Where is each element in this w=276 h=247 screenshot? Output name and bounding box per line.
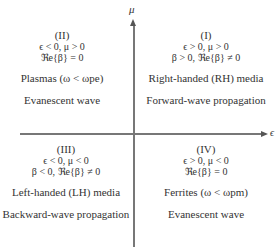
mu-axis (133, 24, 135, 247)
quadrant-ii: (II) ϵ < 0, μ > 0 ℜe{β} = 0 Plasmas (ω <… (0, 30, 124, 106)
quadrant-wave: Evanescent wave (136, 209, 276, 220)
quadrant-condition: ϵ > 0, μ < 0 (136, 155, 276, 166)
quadrant-iv: (IV) ϵ > 0, μ < 0 ℜe{β} = 0 Ferrites (ω … (136, 144, 276, 220)
quadrant-number: (II) (0, 30, 124, 41)
quadrant-number: (I) (136, 30, 276, 41)
quadrant-wave: Backward-wave propagation (0, 209, 132, 220)
quadrant-wave: Forward-wave propagation (136, 95, 276, 106)
quadrant-i: (I) ϵ > 0, μ > 0 β > 0, ℜe{β} ≠ 0 Right-… (136, 30, 276, 106)
quadrant-media: Left-handed (LH) media (0, 187, 132, 198)
quadrant-media: Ferrites (ω < ωpm) (136, 187, 276, 198)
quadrant-condition: β < 0, ℜe{β} ≠ 0 (0, 166, 132, 177)
quadrant-wave: Evanescent wave (0, 95, 124, 106)
quadrant-condition: ℜe{β} = 0 (136, 166, 276, 177)
mu-axis-arrow-icon (130, 19, 136, 26)
mu-axis-label: μ (129, 3, 135, 15)
quadrant-condition: ϵ > 0, μ > 0 (136, 41, 276, 52)
epsilon-axis-label: ϵ (270, 127, 274, 138)
quadrant-iii: (III) ϵ < 0, μ < 0 β < 0, ℜe{β} ≠ 0 Left… (0, 144, 132, 220)
quadrant-condition: β > 0, ℜe{β} ≠ 0 (136, 52, 276, 63)
quadrant-number: (IV) (136, 144, 276, 155)
quadrant-number: (III) (0, 144, 132, 155)
quadrant-condition: ϵ < 0, μ > 0 (0, 41, 124, 52)
epsilon-axis (20, 133, 264, 135)
epsilon-axis-arrow-icon (261, 131, 268, 137)
quadrant-condition: ℜe{β} = 0 (0, 52, 124, 63)
quadrant-media: Right-handed (RH) media (136, 73, 276, 84)
quadrant-condition: ϵ < 0, μ < 0 (0, 155, 132, 166)
quadrant-media: Plasmas (ω < ωpe) (0, 73, 124, 84)
